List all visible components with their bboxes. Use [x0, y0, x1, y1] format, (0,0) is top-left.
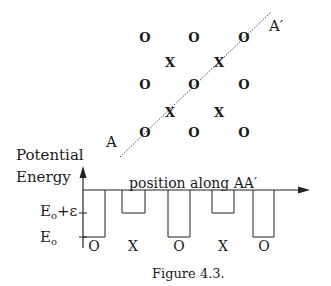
point-a-label: A	[106, 135, 117, 150]
site-o: O	[139, 31, 150, 44]
y-axis-arrow-icon	[80, 166, 87, 178]
well-label-x: X	[128, 239, 138, 253]
well-x-1	[122, 190, 145, 213]
point-a-prime-label: A′	[269, 19, 283, 34]
site-x: X	[165, 56, 175, 69]
site-o: O	[238, 126, 249, 139]
level-eo-plus-eps-label: Eo+ε	[40, 204, 77, 221]
well-label-o: O	[258, 239, 269, 253]
site-o: O	[188, 126, 199, 139]
x-axis-arrow-icon	[298, 187, 310, 194]
well-label-o: O	[173, 239, 184, 253]
site-o: O	[139, 126, 150, 139]
level-eo-label: Eo	[40, 230, 57, 247]
site-o: O	[188, 31, 199, 44]
y-axis-title-line2: Energy	[16, 170, 71, 185]
x-axis-title: position along AA′	[129, 176, 257, 190]
site-o: O	[139, 78, 150, 91]
well-x-2	[212, 190, 234, 213]
figure-caption: Figure 4.3.	[152, 267, 225, 280]
site-x: X	[214, 56, 224, 69]
well-label-x: X	[218, 239, 228, 253]
site-o: O	[238, 31, 249, 44]
site-o: O	[188, 78, 199, 91]
well-label-o: O	[88, 239, 99, 253]
site-o: O	[238, 78, 249, 91]
site-x: X	[214, 106, 224, 119]
site-x: X	[165, 106, 175, 119]
well-o-3	[253, 190, 274, 237]
y-axis-title-line1: Potential	[16, 148, 84, 163]
well-o-2	[168, 190, 190, 237]
